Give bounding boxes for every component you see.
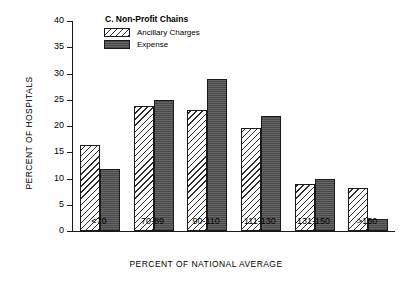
y-tick-mark (67, 231, 73, 232)
y-tick: 5 (72, 205, 73, 206)
y-tick-label: 5 (42, 199, 64, 209)
x-tick-label: 70-89 (126, 216, 180, 226)
legend-item-expense: Expense (104, 40, 254, 49)
legend: C. Non-Profit Chains Ancillary Charges E… (104, 14, 254, 52)
y-tick: 35 (72, 47, 73, 48)
y-tick: 30 (72, 74, 73, 75)
x-tick-label: 111-130 (233, 216, 287, 226)
y-tick-label: 0 (42, 225, 64, 235)
y-tick-mark (67, 74, 73, 75)
y-tick-mark (67, 126, 73, 127)
y-axis-title: PERCENT OF HOSPITALS (24, 43, 34, 223)
y-tick: 15 (72, 152, 73, 153)
bar (134, 106, 154, 231)
y-tick-label: 20 (42, 120, 64, 130)
y-tick-mark (67, 205, 73, 206)
y-tick-label: 15 (42, 146, 64, 156)
y-tick-label: 25 (42, 94, 64, 104)
bar (154, 100, 174, 231)
y-tick: 40 (72, 21, 73, 22)
legend-label: Expense (137, 40, 168, 49)
x-axis-title: PERCENT OF NATIONAL AVERAGE (0, 259, 412, 269)
y-tick-mark (67, 47, 73, 48)
bar-chart: PERCENT OF HOSPITALS 0510152025303540 <7… (0, 0, 412, 285)
x-tick-label: <70 (72, 216, 126, 226)
y-tick-label: 40 (42, 15, 64, 25)
legend-label: Ancillary Charges (137, 28, 200, 37)
y-tick-label: 35 (42, 41, 64, 51)
bar (187, 110, 207, 231)
legend-swatch-solid-icon (104, 40, 130, 49)
x-tick-label: 131-150 (287, 216, 341, 226)
chart-title: C. Non-Profit Chains (105, 14, 254, 24)
y-tick-mark (67, 179, 73, 180)
y-tick: 10 (72, 179, 73, 180)
y-tick-label: 10 (42, 173, 64, 183)
legend-item-ancillary-charges: Ancillary Charges (104, 28, 254, 37)
y-tick-label: 30 (42, 68, 64, 78)
x-tick-label: >150 (340, 216, 394, 226)
plot-area: 0510152025303540 (72, 21, 394, 231)
y-tick-mark (67, 21, 73, 22)
bar (261, 116, 281, 232)
y-tick-mark (67, 100, 73, 101)
x-tick-label: 90-110 (179, 216, 233, 226)
x-axis-line (72, 231, 395, 232)
y-tick: 20 (72, 126, 73, 127)
y-tick: 25 (72, 100, 73, 101)
y-tick-mark (67, 152, 73, 153)
legend-swatch-hatch-icon (104, 28, 130, 37)
y-tick: 0 (72, 231, 73, 232)
bar (207, 79, 227, 231)
